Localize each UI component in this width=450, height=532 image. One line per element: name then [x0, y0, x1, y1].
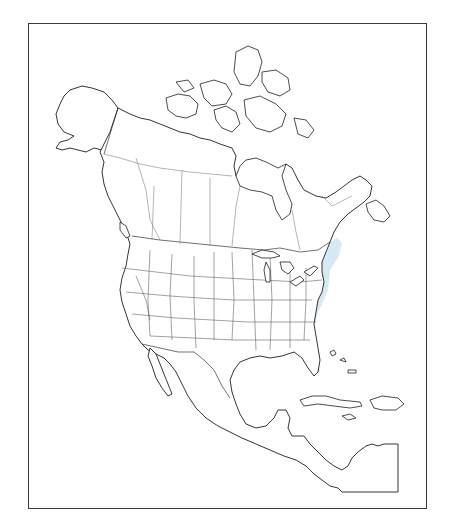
arctic-island-2	[200, 80, 232, 106]
arctic-island-1	[166, 94, 198, 118]
hispaniola	[370, 396, 404, 410]
arctic-island-4	[214, 106, 240, 132]
range-map	[0, 0, 450, 532]
arctic-island-3	[234, 46, 262, 86]
jamaica	[342, 414, 356, 420]
cuba	[300, 396, 362, 408]
bahamas	[330, 350, 356, 373]
arctic-island-6	[262, 70, 290, 96]
arctic-island-5	[244, 96, 286, 132]
arctic-island-8	[176, 80, 194, 92]
land-outlines	[56, 46, 404, 492]
arctic-island-7	[294, 118, 314, 138]
newfoundland	[366, 200, 390, 222]
